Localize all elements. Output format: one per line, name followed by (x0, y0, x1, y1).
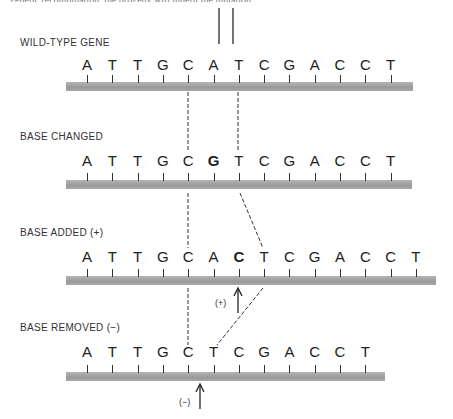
base-letter: G (254, 343, 274, 360)
base-letter: C (178, 56, 198, 73)
base-tick (138, 75, 139, 83)
base-tick (138, 173, 139, 181)
base-letter: C (178, 152, 198, 169)
base-letter: T (355, 343, 375, 360)
base-letter: T (229, 152, 249, 169)
base-tick (264, 365, 265, 373)
base-tick (315, 365, 316, 373)
base-letter: C (330, 56, 350, 73)
base-tick (163, 365, 164, 373)
base-tick (112, 365, 113, 373)
base-tick (365, 75, 366, 83)
base-letter: T (102, 248, 122, 265)
base-letter: G (153, 56, 173, 73)
base-letter: A (330, 248, 350, 265)
base-tick (87, 173, 88, 181)
base-letter: T (102, 56, 122, 73)
base-letter: A (77, 248, 97, 265)
base-tick (214, 173, 215, 181)
base-tick (264, 173, 265, 181)
base-letter: T (204, 343, 224, 360)
base-letter: T (128, 248, 148, 265)
base-letter: G (305, 248, 325, 265)
base-tick (391, 173, 392, 181)
base-letter: A (204, 248, 224, 265)
base-tick (289, 75, 290, 83)
base-letter: T (102, 343, 122, 360)
base-tick (264, 269, 265, 277)
base-letter: A (77, 343, 97, 360)
base-tick (340, 173, 341, 181)
row-label-base-added: BASE ADDED (+) (20, 227, 103, 238)
base-letter: A (77, 152, 97, 169)
base-letter: T (128, 56, 148, 73)
base-letter: C (254, 56, 274, 73)
base-tick (239, 75, 240, 83)
base-letter: T (128, 343, 148, 360)
base-tick (188, 365, 189, 373)
base-letter: A (305, 152, 325, 169)
row-label-wild-type: WILD-TYPE GENE (20, 37, 110, 48)
base-tick (391, 75, 392, 83)
base-letter: C (330, 152, 350, 169)
base-tick (365, 269, 366, 277)
base-letter: G (279, 56, 299, 73)
base-tick (188, 269, 189, 277)
base-tick (315, 269, 316, 277)
base-letter: A (77, 56, 97, 73)
base-tick (289, 269, 290, 277)
base-tick (112, 75, 113, 83)
base-letter: C (355, 152, 375, 169)
base-tick (239, 269, 240, 277)
base-tick (214, 75, 215, 83)
dna-strand-bar (66, 276, 436, 285)
base-tick (239, 173, 240, 181)
base-letter: C (178, 248, 198, 265)
base-tick (365, 365, 366, 373)
base-letter: C (330, 343, 350, 360)
base-tick (416, 269, 417, 277)
base-tick (289, 173, 290, 181)
removed-marker: (−) (179, 397, 190, 407)
base-letter: T (406, 248, 426, 265)
base-letter: C (254, 152, 274, 169)
base-tick (315, 173, 316, 181)
base-letter: T (128, 152, 148, 169)
base-tick (391, 269, 392, 277)
row-label-base-changed: BASE CHANGED (20, 131, 103, 142)
base-letter: C (355, 248, 375, 265)
base-tick (264, 75, 265, 83)
base-letter: G (204, 152, 224, 169)
base-tick (163, 269, 164, 277)
base-letter: C (229, 248, 249, 265)
base-tick (188, 75, 189, 83)
base-tick (340, 365, 341, 373)
base-letter: A (305, 56, 325, 73)
base-letter: A (204, 56, 224, 73)
base-tick (214, 365, 215, 373)
base-tick (138, 269, 139, 277)
base-tick (163, 173, 164, 181)
base-tick (365, 173, 366, 181)
base-letter: C (178, 343, 198, 360)
base-letter: G (153, 343, 173, 360)
base-tick (163, 75, 164, 83)
base-tick (87, 365, 88, 373)
base-letter: G (279, 152, 299, 169)
base-letter: C (279, 248, 299, 265)
base-tick (87, 75, 88, 83)
base-tick (239, 365, 240, 373)
base-tick (340, 269, 341, 277)
base-letter: T (381, 152, 401, 169)
base-tick (188, 173, 189, 181)
base-tick (87, 269, 88, 277)
base-tick (214, 269, 215, 277)
added-marker: (+) (215, 298, 226, 308)
dna-strand-bar (66, 180, 412, 189)
base-letter: C (355, 56, 375, 73)
dna-strand-bar (66, 82, 413, 91)
base-tick (340, 75, 341, 83)
base-letter: C (305, 343, 325, 360)
base-letter: T (381, 56, 401, 73)
base-letter: T (254, 248, 274, 265)
